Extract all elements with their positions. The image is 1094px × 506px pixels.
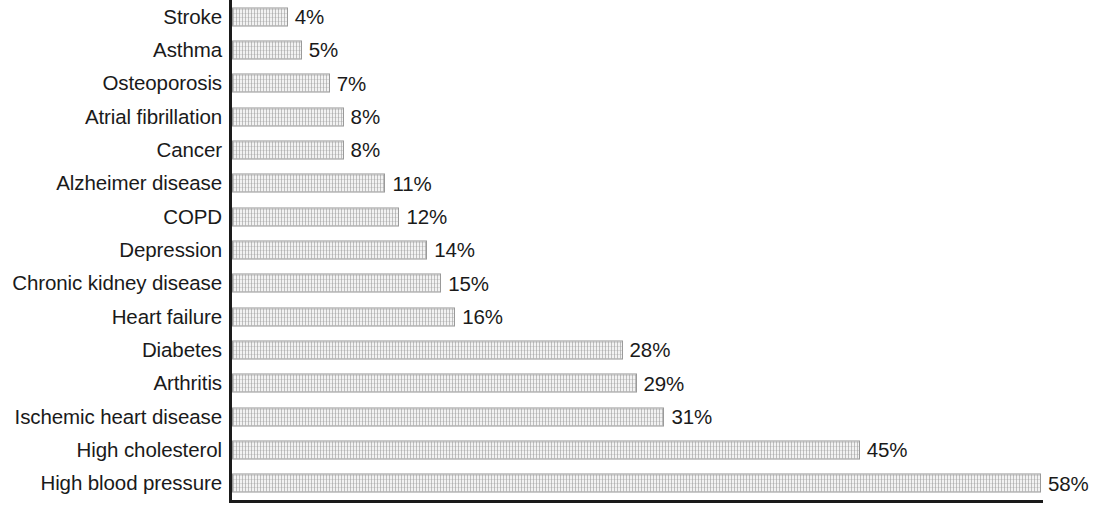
bar-row: Ischemic heart disease31% [0, 400, 1094, 433]
bar-value-label: 11% [392, 173, 431, 194]
bar-row: Stroke4% [0, 0, 1094, 33]
category-label: Arthritis [153, 373, 222, 394]
bar-row: Alzheimer disease11% [0, 167, 1094, 200]
bar-container: 8% [232, 140, 380, 159]
bar-value-label: 5% [309, 40, 338, 61]
plot-area: Stroke4%Asthma5%Osteoporosis7%Atrial fib… [0, 0, 1094, 506]
bar-container: 7% [232, 74, 366, 93]
bar-value-label: 58% [1048, 473, 1089, 494]
bar-row: Depression14% [0, 233, 1094, 266]
bar-value-label: 7% [337, 73, 366, 94]
bar [232, 474, 1041, 493]
bar [232, 174, 385, 193]
bar-row: Chronic kidney disease15% [0, 267, 1094, 300]
bar-value-label: 15% [448, 273, 489, 294]
bar-value-label: 14% [434, 240, 475, 261]
bar-value-label: 45% [867, 440, 908, 461]
bar-row: Heart failure16% [0, 300, 1094, 333]
bar-row: High cholesterol45% [0, 433, 1094, 466]
bar-row: Asthma5% [0, 33, 1094, 66]
bar [232, 107, 344, 126]
bar-container: 45% [232, 440, 907, 459]
category-label: Ischemic heart disease [15, 406, 222, 427]
bar [232, 307, 455, 326]
bar-value-label: 31% [671, 406, 712, 427]
bar-container: 58% [232, 474, 1089, 493]
category-label: Diabetes [142, 340, 222, 361]
bar [232, 40, 302, 59]
bar-value-label: 8% [351, 140, 380, 161]
category-label: Depression [119, 240, 222, 261]
x-axis-line [229, 500, 1043, 503]
bar-container: 29% [232, 374, 684, 393]
bar-container: 16% [232, 307, 503, 326]
bar [232, 74, 330, 93]
bar-row: Diabetes28% [0, 333, 1094, 366]
category-label: High blood pressure [40, 473, 222, 494]
category-label: Atrial fibrillation [85, 106, 222, 127]
bar [232, 340, 623, 359]
bar-container: 8% [232, 107, 380, 126]
bar-value-label: 29% [644, 373, 685, 394]
bar [232, 207, 399, 226]
bar [232, 140, 344, 159]
bar [232, 407, 664, 426]
bar-container: 4% [232, 7, 324, 26]
bar [232, 7, 288, 26]
bar-row: High blood pressure58% [0, 467, 1094, 500]
bar-value-label: 16% [462, 306, 503, 327]
category-label: High cholesterol [77, 440, 222, 461]
bar [232, 274, 441, 293]
bar-value-label: 28% [630, 340, 671, 361]
bar-chart: Stroke4%Asthma5%Osteoporosis7%Atrial fib… [0, 0, 1094, 506]
bar [232, 374, 637, 393]
bar-container: 5% [232, 40, 338, 59]
bar-container: 14% [232, 240, 475, 259]
category-label: Alzheimer disease [56, 173, 222, 194]
bar-container: 31% [232, 407, 712, 426]
category-label: Asthma [153, 40, 222, 61]
bar-value-label: 8% [351, 106, 380, 127]
bar-container: 28% [232, 340, 670, 359]
bar-row: Atrial fibrillation8% [0, 100, 1094, 133]
bar-value-label: 4% [295, 6, 324, 27]
bar-row: Osteoporosis7% [0, 67, 1094, 100]
bar-container: 12% [232, 207, 447, 226]
category-label: Heart failure [112, 306, 222, 327]
y-axis-line [229, 0, 232, 500]
bar-container: 11% [232, 174, 432, 193]
bar-rows: Stroke4%Asthma5%Osteoporosis7%Atrial fib… [0, 0, 1094, 500]
bar-row: Arthritis29% [0, 367, 1094, 400]
category-label: COPD [163, 206, 222, 227]
bar-row: Cancer8% [0, 133, 1094, 166]
bar-row: COPD12% [0, 200, 1094, 233]
bar [232, 440, 860, 459]
category-label: Osteoporosis [102, 73, 222, 94]
bar-value-label: 12% [406, 206, 447, 227]
category-label: Stroke [163, 6, 222, 27]
category-label: Cancer [157, 140, 223, 161]
bar [232, 240, 427, 259]
category-label: Chronic kidney disease [12, 273, 222, 294]
bar-container: 15% [232, 274, 489, 293]
